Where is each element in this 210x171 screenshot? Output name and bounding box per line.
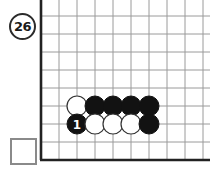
stones-layer: 1 [67,96,159,134]
go-stone-white[interactable] [67,96,87,116]
stone-move-label: 1 [73,118,81,132]
stone-disc [103,114,123,134]
move-number-badge: 26 [9,13,36,40]
stone-disc [103,96,123,116]
stone-disc [121,96,141,116]
go-stone-black[interactable] [85,96,105,116]
go-stone-white[interactable] [103,114,123,134]
go-stone-black[interactable] [139,96,159,116]
stone-disc [67,96,87,116]
go-stone-black[interactable]: 1 [67,114,87,134]
grid-lines [41,0,210,160]
stone-disc [85,114,105,134]
go-stone-black[interactable] [121,96,141,116]
stone-disc [139,114,159,134]
stone-disc [139,96,159,116]
stone-disc [85,96,105,116]
go-stone-white[interactable] [85,114,105,134]
go-stone-white[interactable] [121,114,141,134]
capture-count-box [10,138,37,165]
stone-disc [121,114,141,134]
go-stone-black[interactable] [103,96,123,116]
go-stone-black[interactable] [139,114,159,134]
diagram-root: 1 26 [0,0,210,171]
